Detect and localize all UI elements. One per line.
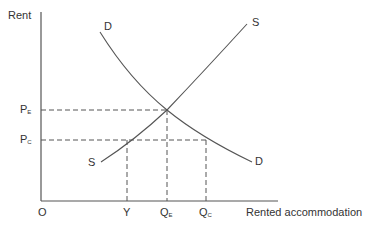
demand-curve (100, 32, 252, 162)
pc-sub: C (27, 139, 31, 145)
qe-sub: E (169, 212, 173, 218)
supply-curve (101, 24, 247, 162)
y-axis-label: Rent (8, 10, 31, 21)
diagram-canvas (0, 0, 380, 227)
origin-label: O (38, 207, 47, 218)
qc-label: QC (199, 207, 212, 218)
demand-label-bottom: D (255, 156, 263, 167)
qe-main: Q (160, 206, 169, 218)
y-main: Y (123, 206, 130, 218)
supply-label-bottom: S (88, 157, 95, 168)
qc-sub: C (208, 212, 212, 218)
qe-label: QE (160, 207, 173, 218)
y-quantity-label: Y (123, 207, 130, 218)
pe-label: PE (20, 104, 31, 115)
pe-sub: E (27, 109, 31, 115)
x-axis-label: Rented accommodation (246, 207, 362, 218)
supply-label-top: S (252, 17, 259, 28)
demand-label-top: D (104, 21, 112, 32)
qc-main: Q (199, 206, 208, 218)
pc-label: PC (20, 134, 32, 145)
